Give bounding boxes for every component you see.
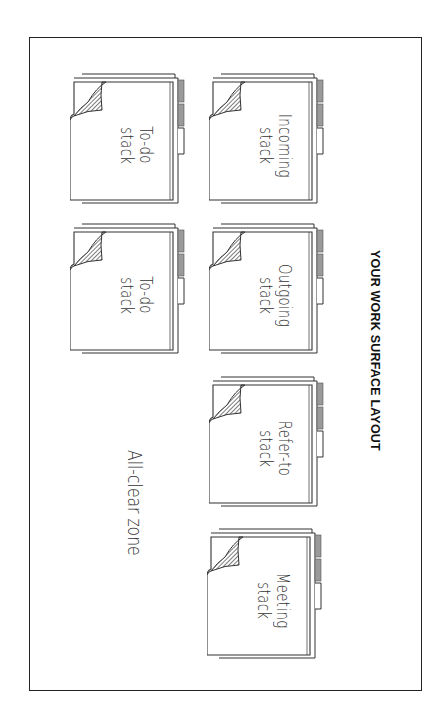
folder-label-line1: Refer-to — [275, 421, 294, 476]
folder-to-do-stack: To-dostack — [70, 222, 186, 355]
folder-label: Incomingstack — [209, 72, 325, 205]
folder-label: To-dostack — [70, 72, 186, 205]
folder-label: Outgoingstack — [209, 222, 325, 355]
folder-label-line1: Meeting — [273, 573, 292, 629]
folder-label-line1: Outgoing — [275, 264, 294, 327]
folder-label-line2: stack — [254, 582, 273, 619]
folder-label-line2: stack — [117, 127, 136, 164]
zone-label-text: All-clear zone — [123, 450, 147, 556]
folder-label-line2: stack — [117, 277, 136, 314]
folder-label-line2: stack — [256, 127, 275, 164]
folder-outgoing-stack: Outgoingstack — [209, 222, 325, 355]
diagram-title: YOUR WORK SURFACE LAYOUT — [366, 250, 382, 485]
folder-label: Meetingstack — [207, 527, 323, 660]
folder-label: Refer-tostack — [209, 375, 325, 508]
folder-incoming-stack: Incomingstack — [209, 72, 325, 205]
folder-label-line2: stack — [256, 277, 275, 314]
all-clear-zone-label: All-clear zone — [119, 450, 147, 580]
folder-label: To-dostack — [70, 222, 186, 355]
folder-meeting-stack: Meetingstack — [207, 527, 323, 660]
folder-label-line2: stack — [256, 430, 275, 467]
folder-label-line1: To-do — [136, 277, 155, 314]
folder-label-line1: Incoming — [275, 114, 294, 178]
folder-to-do-stack: To-dostack — [70, 72, 186, 205]
folder-label-line1: To-do — [136, 127, 155, 164]
folder-refer-to-stack: Refer-tostack — [209, 375, 325, 508]
